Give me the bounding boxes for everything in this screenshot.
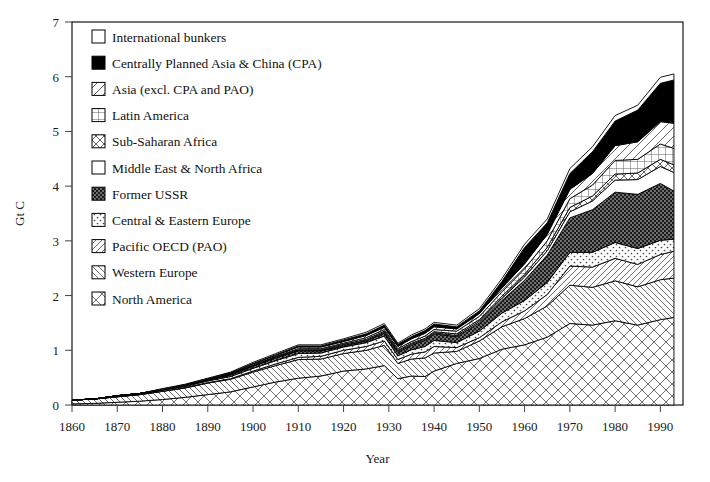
- legend-swatch: [92, 240, 105, 253]
- legend-swatch: [92, 187, 105, 200]
- y-tick-label: 2: [53, 289, 60, 304]
- legend-label: Pacific OECD (PAO): [112, 239, 227, 254]
- y-tick-label: 0: [53, 398, 60, 413]
- x-tick-label: 1980: [602, 419, 628, 434]
- x-tick-label: 1870: [104, 419, 130, 434]
- legend-label: Western Europe: [112, 265, 198, 280]
- x-tick-label: 1920: [331, 419, 357, 434]
- x-tick-label: 1970: [557, 419, 583, 434]
- legend-label: International bunkers: [112, 30, 226, 45]
- y-tick-label: 7: [53, 15, 60, 30]
- y-tick-label: 4: [53, 179, 60, 194]
- y-tick-label: 5: [53, 124, 60, 139]
- x-tick-label: 1940: [421, 419, 447, 434]
- legend-swatch: [92, 30, 105, 43]
- legend-swatch: [92, 266, 105, 279]
- legend-swatch: [92, 82, 105, 95]
- x-tick-label: 1950: [466, 419, 492, 434]
- legend-item-central-eastern-europe[interactable]: Central & Eastern Europe: [92, 213, 251, 228]
- y-tick-label: 3: [53, 234, 60, 249]
- x-axis-title: Year: [366, 451, 391, 466]
- legend-swatch: [92, 109, 105, 122]
- x-tick-label: 1880: [150, 419, 176, 434]
- legend-item-centrally-planned-asia-china-cpa[interactable]: Centrally Planned Asia & China (CPA): [92, 56, 322, 71]
- x-tick-label: 1890: [195, 419, 221, 434]
- legend-item-pacific-oecd-pao[interactable]: Pacific OECD (PAO): [92, 239, 227, 254]
- x-tick-label: 1900: [240, 419, 266, 434]
- stacked-area-chart: 1860187018801890190019101920193019401950…: [0, 0, 710, 482]
- legend-swatch: [92, 292, 105, 305]
- x-tick-label: 1990: [647, 419, 673, 434]
- legend-swatch: [92, 213, 105, 226]
- legend-label: Centrally Planned Asia & China (CPA): [112, 56, 322, 71]
- legend-swatch: [92, 161, 105, 174]
- legend-label: Latin America: [112, 108, 189, 123]
- x-tick-label: 1910: [285, 419, 311, 434]
- legend-item-international-bunkers[interactable]: International bunkers: [92, 30, 226, 45]
- y-tick-label: 1: [53, 343, 60, 358]
- legend-item-asia-excl-cpa-and-pao[interactable]: Asia (excl. CPA and PAO): [92, 82, 253, 97]
- x-tick-label: 1960: [512, 419, 538, 434]
- legend-swatch: [92, 135, 105, 148]
- legend-label: Sub-Saharan Africa: [112, 134, 217, 149]
- legend-label: North America: [112, 292, 192, 307]
- chart-figure: 1860187018801890190019101920193019401950…: [0, 0, 710, 482]
- x-tick-label: 1860: [59, 419, 85, 434]
- legend-label: Asia (excl. CPA and PAO): [112, 82, 253, 97]
- x-tick-label: 1930: [376, 419, 402, 434]
- legend-item-middle-east-north-africa[interactable]: Middle East & North Africa: [92, 161, 262, 176]
- legend-label: Former USSR: [112, 187, 188, 202]
- y-tick-label: 6: [53, 70, 60, 85]
- y-axis-title: Gt C: [12, 201, 27, 226]
- legend-label: Central & Eastern Europe: [112, 213, 251, 228]
- legend-swatch: [92, 56, 105, 69]
- legend-label: Middle East & North Africa: [112, 161, 262, 176]
